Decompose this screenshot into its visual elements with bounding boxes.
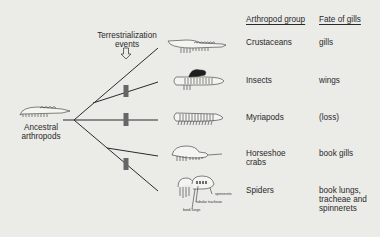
fate-myriapods: (loss) [319, 113, 339, 122]
horseshoe-crab-drawing [172, 146, 222, 161]
crustacean-drawing [168, 40, 226, 53]
fate-insects: wings [319, 76, 340, 85]
group-crustaceans: Crustaceans [246, 38, 292, 47]
ancestral-arthropods-label: Ancestral arthropods [18, 123, 64, 141]
terrestrialization-label: Terrestrialization events [96, 31, 158, 49]
tree-branches [63, 48, 158, 191]
fate-spiders-line2: tracheae and [319, 195, 367, 204]
fate-spiders: book lungs, tracheae and spinnerets [319, 186, 367, 213]
terrestrialization-markers [124, 85, 129, 170]
spider-drawing [178, 176, 214, 209]
group-horseshoe-line2: crabs [246, 158, 286, 167]
fate-spiders-line1: book lungs, [319, 186, 367, 195]
down-arrow-icon [121, 48, 131, 59]
spider-label-tubular-tracheae: tubular tracheae [196, 200, 222, 204]
group-myriapods: Myriapods [246, 113, 284, 122]
group-insects: Insects [246, 76, 272, 85]
header-fate-of-gills: Fate of gills [319, 15, 361, 24]
marker-spiders [124, 158, 129, 170]
insect-drawing [174, 70, 224, 90]
branch-spiders [74, 120, 158, 191]
fate-crustaceans: gills [319, 38, 333, 47]
group-horseshoe-line1: Horseshoe [246, 149, 286, 158]
spider-label-spinnerets: spinnerets [215, 192, 232, 196]
terrestrialization-line1: Terrestrialization [96, 31, 158, 40]
ancestor-line2: arthropods [18, 132, 64, 141]
group-horseshoe-crabs: Horseshoe crabs [246, 149, 286, 167]
header-arthropod-group: Arthropod group [246, 15, 305, 24]
ancestral-arthropod-drawing [20, 107, 70, 118]
spider-label-book-lungs: book lungs [183, 208, 201, 212]
marker-insects [124, 85, 129, 97]
terrestrialization-line2: events [96, 40, 158, 49]
myriapod-drawing [174, 113, 223, 125]
group-spiders: Spiders [246, 186, 274, 195]
fate-spiders-line3: spinnerets [319, 204, 367, 213]
ancestor-line1: Ancestral [18, 123, 64, 132]
fate-horseshoe-crabs: book gills [319, 149, 353, 158]
branch-crustaceans [74, 48, 158, 120]
marker-myriapods [124, 113, 129, 126]
